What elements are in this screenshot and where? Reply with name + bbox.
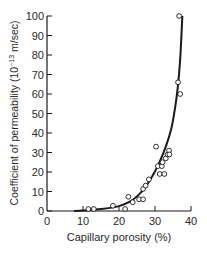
permeability-chart: 0102030405060708090100 010203040 Capilla… <box>0 0 207 253</box>
data-point <box>141 197 146 202</box>
data-point <box>91 207 96 212</box>
y-tick-label: 40 <box>32 127 44 139</box>
x-axis-label: Capillary porosity (%) <box>67 231 172 243</box>
y-tick-label: 10 <box>32 186 44 198</box>
y-axis-label-suffix: m/sec) <box>8 20 20 54</box>
y-axis-label-prefix: Coefficient of permeability (10 <box>8 67 20 206</box>
data-point <box>86 207 91 212</box>
data-point <box>167 152 172 157</box>
y-axis-ticks: 0102030405060708090100 <box>26 10 52 217</box>
y-tick-label: 20 <box>32 166 44 178</box>
y-tick-label: 60 <box>32 88 44 100</box>
x-tick-label: 40 <box>185 215 197 227</box>
x-tick-label: 20 <box>113 215 125 227</box>
data-point <box>177 14 182 19</box>
y-tick-label: 80 <box>32 49 44 61</box>
y-tick-label: 100 <box>26 10 44 22</box>
y-axis-label: Coefficient of permeability (10−13 m/sec… <box>8 20 20 205</box>
x-tick-label: 30 <box>149 215 161 227</box>
x-tick-label: 10 <box>77 215 89 227</box>
chart-svg: 0102030405060708090100 010203040 Capilla… <box>0 0 207 253</box>
axes <box>47 16 191 211</box>
data-point <box>178 92 183 97</box>
data-point <box>110 203 115 208</box>
data-points <box>86 14 183 212</box>
fitted-curve <box>74 16 182 211</box>
data-point <box>123 207 128 212</box>
data-point <box>157 172 162 177</box>
y-tick-label: 70 <box>32 69 44 81</box>
data-point <box>146 177 151 182</box>
data-point <box>143 183 148 188</box>
y-tick-label: 90 <box>32 30 44 42</box>
data-point <box>162 172 167 177</box>
y-axis-label-exponent: −13 <box>8 55 15 67</box>
data-point <box>130 200 135 205</box>
data-point <box>154 144 159 149</box>
y-tick-label: 50 <box>32 108 44 120</box>
data-point <box>176 80 181 85</box>
data-point <box>126 194 131 199</box>
x-axis-ticks: 010203040 <box>44 206 197 227</box>
y-tick-label: 30 <box>32 147 44 159</box>
x-tick-label: 0 <box>44 215 50 227</box>
